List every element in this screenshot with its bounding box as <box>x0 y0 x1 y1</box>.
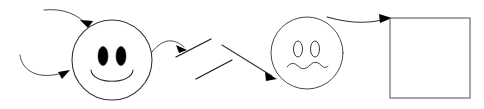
worried-face-outline <box>271 17 343 89</box>
smiley-face-outline <box>72 20 152 100</box>
rectangle-shape <box>390 18 470 98</box>
arrowhead-bottom-left <box>58 70 70 79</box>
parallel-strokes <box>176 39 232 79</box>
worried-mouth <box>287 62 328 69</box>
sketch-diagram <box>0 0 484 109</box>
arrowhead-top-left <box>80 20 93 28</box>
smiley-face <box>72 20 152 100</box>
worried-right-eye <box>311 41 320 57</box>
smiley-left-eye <box>98 47 108 66</box>
smiley-mouth <box>91 70 133 81</box>
strokes-to-worried-arrow <box>222 45 277 81</box>
bottom-left-arrow <box>20 55 70 79</box>
diagram-canvas <box>0 0 484 109</box>
top-left-arrow <box>44 10 93 28</box>
worried-to-box-arrow <box>327 14 392 23</box>
worried-face <box>271 17 343 89</box>
smiley-to-strokes-arrow <box>152 41 187 53</box>
parallel-stroke-lower <box>196 60 232 79</box>
smiley-right-eye <box>116 47 126 66</box>
worried-left-eye <box>294 41 303 57</box>
arrowhead-worried <box>265 72 277 81</box>
